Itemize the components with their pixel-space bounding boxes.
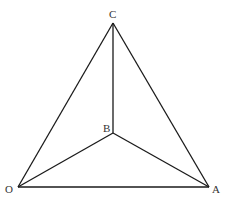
- label-O: O: [5, 183, 13, 195]
- edge-AC: [113, 23, 209, 187]
- edge-BO: [18, 133, 113, 187]
- label-A: A: [212, 183, 220, 195]
- label-C: C: [109, 8, 116, 20]
- edge-BA: [113, 133, 209, 187]
- edge-OC: [18, 23, 113, 187]
- tetrahedron-diagram: C B O A: [0, 0, 228, 197]
- label-B: B: [103, 122, 110, 134]
